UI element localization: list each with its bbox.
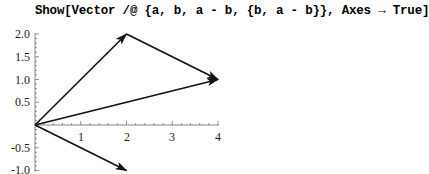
y-tick-labels: 2.0 1.5 1.0 0.5 -0.5 -1.0 — [11, 27, 30, 174]
x-tick-labels: 1 2 3 4 — [78, 130, 221, 144]
y-tick-label: 0.5 — [15, 95, 30, 109]
y-tick-label: -0.5 — [11, 141, 30, 155]
y-tick-label: 1.5 — [15, 50, 30, 64]
vector-arrow — [35, 34, 127, 125]
y-tick-label: 1.0 — [15, 73, 30, 87]
x-tick-label: 3 — [169, 130, 175, 144]
vector-arrow — [35, 80, 218, 126]
y-tick-label: -1.0 — [11, 163, 30, 174]
vector-arrow — [127, 34, 219, 80]
x-tick-label: 2 — [124, 130, 130, 144]
x-tick-label: 4 — [215, 130, 221, 144]
x-tick-label: 1 — [78, 130, 84, 144]
y-tick-label: 2.0 — [15, 27, 30, 41]
